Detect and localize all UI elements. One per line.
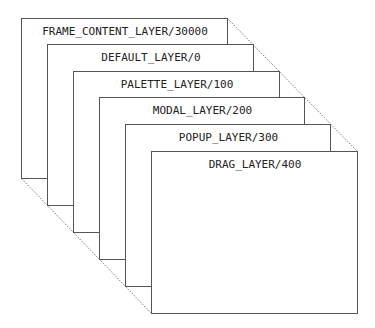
layer-label: DEFAULT_LAYER/0 — [101, 51, 200, 64]
layer-stack-diagram: FRAME_CONTENT_LAYER/30000 DEFAULT_LAYER/… — [0, 0, 375, 328]
layer-label: DRAG_LAYER/400 — [209, 158, 302, 171]
layer-label: POPUP_LAYER/300 — [179, 131, 278, 144]
layer-label: FRAME_CONTENT_LAYER/30000 — [42, 25, 208, 38]
layer-label: MODAL_LAYER/200 — [153, 104, 252, 117]
layer-label: PALETTE_LAYER/100 — [121, 78, 234, 91]
layer-boxes: FRAME_CONTENT_LAYER/30000 DEFAULT_LAYER/… — [22, 19, 358, 314]
layer-box-drag: DRAG_LAYER/400 — [152, 152, 358, 314]
